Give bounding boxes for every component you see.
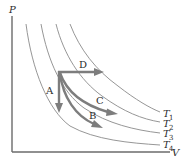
process-d-label: D xyxy=(79,59,87,70)
pressure-axis-label: P xyxy=(8,4,16,15)
pv-diagram: P V T 1 T 2 T 3 T 4 D A C B xyxy=(0,0,188,166)
arrowhead-icon xyxy=(91,120,103,128)
svg-text:4: 4 xyxy=(169,145,174,153)
process-c-label: C xyxy=(96,95,104,106)
arrowhead-icon xyxy=(106,109,118,117)
process-b-label: B xyxy=(89,110,96,121)
process-a-label: A xyxy=(45,85,54,96)
